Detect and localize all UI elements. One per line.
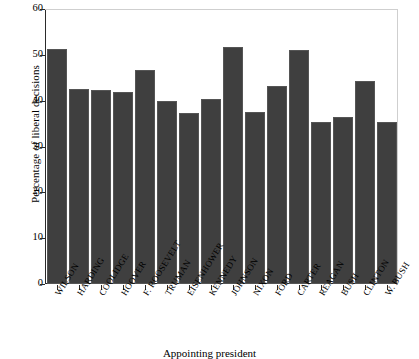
y-tick-label: 30 <box>0 141 43 151</box>
bar <box>135 70 155 285</box>
y-tick-label: 60 <box>0 3 43 13</box>
bar <box>311 122 331 284</box>
y-tick-mark <box>40 9 45 10</box>
bar <box>179 113 199 284</box>
y-tick-label: 50 <box>0 49 43 59</box>
bar <box>355 81 375 284</box>
x-axis-title: Appointing president <box>0 347 419 359</box>
bar <box>47 49 67 284</box>
bar <box>289 50 309 284</box>
bars-group <box>46 9 398 284</box>
y-tick-label: 20 <box>0 186 43 196</box>
y-tick-mark <box>40 284 45 285</box>
y-tick-label: 0 <box>0 278 43 288</box>
bar <box>69 89 89 284</box>
bar <box>267 86 287 284</box>
y-tick-mark <box>40 55 45 56</box>
bar <box>91 90 111 284</box>
y-tick-mark <box>40 238 45 239</box>
y-tick-mark <box>40 192 45 193</box>
y-tick-mark <box>40 147 45 148</box>
y-tick-label: 40 <box>0 95 43 105</box>
bar <box>223 47 243 284</box>
y-tick-label: 10 <box>0 232 43 242</box>
y-tick-mark <box>40 101 45 102</box>
